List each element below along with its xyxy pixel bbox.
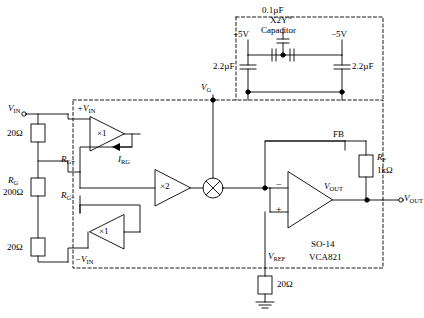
opamp-inverting-sign: − (276, 180, 282, 190)
label-cap-22uf-right: 2.2µF (352, 62, 373, 71)
label-cap-22uf-left: 2.2µF (213, 62, 234, 71)
label-cap-x2y: X2Y® (270, 16, 292, 25)
label-gain-block: ×2 (160, 182, 170, 191)
label-vin-left: VIN (8, 104, 20, 113)
schematic-canvas: VIN 20Ω RG 200Ω 20Ω +VIN −VIN RG+ RG− IR… (0, 0, 424, 318)
opamp-noninverting-sign: + (276, 205, 282, 215)
label-rg: RG (8, 176, 18, 185)
label-rg-minus: RG− (61, 191, 75, 200)
label-vout-node: VOUT (404, 194, 423, 203)
label-supply-positive: +5V (233, 30, 249, 39)
label-package: SO-14 (311, 240, 335, 249)
label-fb: FB (333, 130, 344, 139)
label-supply-negative: −5V (331, 30, 347, 39)
label-minus-vin: −VIN (75, 255, 93, 264)
label-vg: VG (201, 83, 211, 92)
label-rf-value: 1kΩ (377, 166, 393, 175)
label-plus-vin: +VIN (77, 104, 95, 113)
label-r20-bottom: 20Ω (7, 243, 23, 252)
label-r20-vref: 20Ω (277, 280, 293, 289)
label-buffer-top-gain: ×1 (97, 129, 107, 138)
label-rg-plus: RG+ (61, 155, 75, 164)
label-part-number: VCA821 (309, 253, 342, 262)
label-irg: IRG (118, 155, 130, 164)
label-cap-word: Capacitor (261, 26, 296, 35)
label-r20-top: 20Ω (7, 129, 23, 138)
label-vout-internal: VOUT (324, 182, 343, 191)
label-rf: RF (377, 153, 386, 162)
label-buffer-bottom-gain: ×1 (99, 227, 109, 236)
label-vref: VREF (268, 252, 285, 261)
label-rg-value: 200Ω (3, 188, 23, 197)
label-cap-01uf: 0.1µF (262, 6, 283, 15)
